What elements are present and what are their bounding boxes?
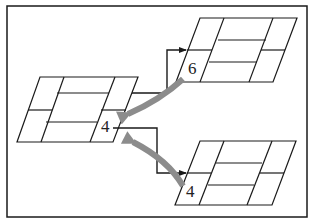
block-left [17, 77, 138, 142]
curved-arrow-from-bottom-right [133, 142, 183, 186]
bottom-right-block-label: 4 [186, 183, 195, 200]
curved-arrow-from-top-right [128, 79, 183, 114]
left-block-label: 4 [101, 118, 110, 135]
top-right-block-label: 6 [188, 60, 197, 77]
diagram-canvas [0, 0, 315, 223]
